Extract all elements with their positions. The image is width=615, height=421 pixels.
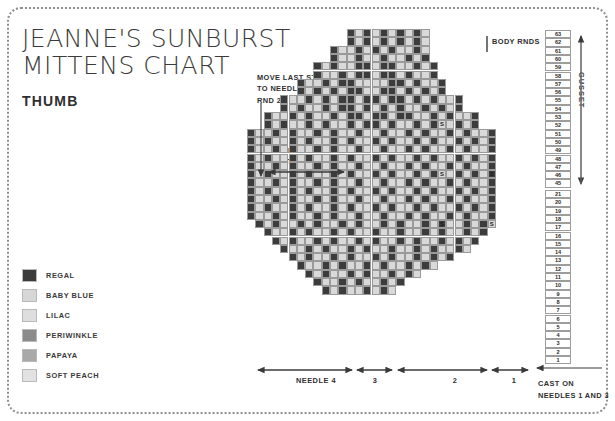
chart-cell [363, 286, 371, 294]
chart-cell [322, 278, 330, 286]
chart-cell [264, 212, 272, 220]
chart-cell [264, 137, 272, 145]
chart-cell [338, 46, 346, 54]
chart-cell [438, 129, 446, 137]
chart-cell [380, 79, 388, 87]
chart-cell [372, 112, 380, 120]
chart-cell [372, 270, 380, 278]
chart-cell [363, 170, 371, 178]
chart-cell [313, 195, 321, 203]
chart-cell [388, 195, 396, 203]
chart-cell [388, 29, 396, 37]
chart-cell [247, 212, 255, 220]
chart-cell [388, 270, 396, 278]
chart-cell [488, 212, 496, 220]
chart-cell [355, 137, 363, 145]
chart-cell [380, 228, 388, 236]
row-number: 45 [545, 179, 571, 187]
chart-cell [446, 178, 454, 186]
chart-cell [305, 195, 313, 203]
chart-cell [438, 178, 446, 186]
chart-cell [272, 212, 280, 220]
chart-cell [438, 245, 446, 253]
chart-cell [421, 245, 429, 253]
chart-cell [289, 104, 297, 112]
chart-cell [363, 261, 371, 269]
chart-cell [413, 154, 421, 162]
row-number: 53 [545, 113, 571, 121]
chart-cell [363, 62, 371, 70]
chart-cell [338, 71, 346, 79]
chart-cell [280, 237, 288, 245]
chart-cell [396, 278, 404, 286]
chart-cell [264, 170, 272, 178]
chart-cell [372, 261, 380, 269]
chart-cell [313, 228, 321, 236]
chart-cell [305, 212, 313, 220]
chart-cell [330, 261, 338, 269]
chart-cell [347, 237, 355, 245]
chart-cell [380, 253, 388, 261]
chart-cell [322, 212, 330, 220]
chart-cell [455, 145, 463, 153]
chart-cell [305, 95, 313, 103]
chart-cell [363, 178, 371, 186]
chart-cell [421, 154, 429, 162]
chart-cell [338, 237, 346, 245]
chart-cell [430, 237, 438, 245]
chart-cell [247, 145, 255, 153]
chart-cell [363, 37, 371, 45]
chart-cell [446, 95, 454, 103]
chart-cell [430, 95, 438, 103]
chart-cell [363, 87, 371, 95]
chart-cell [396, 46, 404, 54]
chart-cell [313, 137, 321, 145]
chart-cell [264, 187, 272, 195]
chart-cell [313, 62, 321, 70]
chart-cell [272, 162, 280, 170]
chart-cell [289, 129, 297, 137]
chart-cell [330, 137, 338, 145]
chart-cell [264, 129, 272, 137]
chart-cell: S [488, 220, 496, 228]
chart-cell [363, 212, 371, 220]
chart-cell [255, 187, 263, 195]
chart-cell [446, 195, 454, 203]
chart-cell [272, 129, 280, 137]
chart-cell [471, 187, 479, 195]
chart-cell [347, 112, 355, 120]
chart-cell [255, 145, 263, 153]
chart-cell [247, 203, 255, 211]
page-subtitle: THUMB [22, 93, 272, 109]
chart-cell [380, 261, 388, 269]
row-number: 62 [545, 38, 571, 46]
chart-cell [338, 162, 346, 170]
chart-cell [455, 129, 463, 137]
chart-cell [413, 195, 421, 203]
chart-cell [338, 203, 346, 211]
chart-cell [421, 29, 429, 37]
chart-cell [347, 120, 355, 128]
chart-cell [330, 104, 338, 112]
chart-cell [455, 162, 463, 170]
chart-cell [405, 79, 413, 87]
chart-cell [413, 95, 421, 103]
chart-cell [338, 253, 346, 261]
row-number: 55 [545, 96, 571, 104]
chart-cell [272, 120, 280, 128]
needle-label: 1 [494, 376, 534, 385]
chart-cell [421, 62, 429, 70]
chart-cell [463, 145, 471, 153]
chart-cell [380, 46, 388, 54]
chart-cell [272, 178, 280, 186]
chart-cell [463, 154, 471, 162]
chart-cell [372, 87, 380, 95]
chart-cell [305, 220, 313, 228]
chart-cell [488, 129, 496, 137]
chart-cell [396, 253, 404, 261]
chart-cell [363, 145, 371, 153]
chart-cell [405, 154, 413, 162]
chart-cell [264, 178, 272, 186]
chart-cell [255, 162, 263, 170]
legend-swatch [22, 309, 37, 322]
